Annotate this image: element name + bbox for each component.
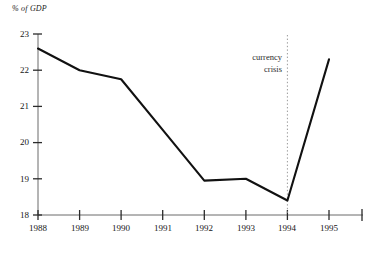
y-tick-label-19: 19	[7, 174, 29, 184]
chart-plot-area	[0, 0, 374, 254]
y-tick-label-20: 20	[7, 137, 29, 147]
x-tick-label-1990: 1990	[101, 223, 141, 233]
x-tick-label-1988: 1988	[18, 223, 58, 233]
y-tick-label-18: 18	[7, 210, 29, 220]
x-tick-label-1994: 1994	[267, 223, 307, 233]
y-tick-label-23: 23	[7, 29, 29, 39]
currency-crisis-annotation: currency crisis	[252, 52, 282, 75]
chart-container: % of GDP	[0, 0, 374, 254]
x-tick-label-1992: 1992	[184, 223, 224, 233]
x-tick-label-1991: 1991	[143, 223, 183, 233]
x-tick-label-1993: 1993	[226, 223, 266, 233]
x-tick-label-1995: 1995	[309, 223, 349, 233]
y-tick-label-22: 22	[7, 65, 29, 75]
x-tick-label-1989: 1989	[60, 223, 100, 233]
currency-crisis-annotation-line1: currency	[252, 52, 282, 64]
data-series-line	[38, 48, 329, 200]
y-tick-label-21: 21	[7, 101, 29, 111]
currency-crisis-annotation-line2: crisis	[252, 64, 282, 76]
